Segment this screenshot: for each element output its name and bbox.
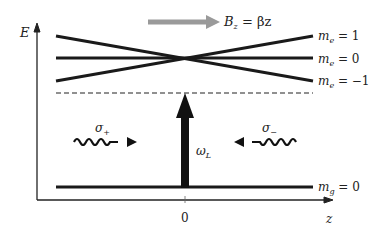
level-label-me-0: me = 0 [318, 53, 359, 65]
x-axis-arrowhead-icon [324, 197, 333, 203]
label-main: m [318, 52, 329, 66]
label-main: m [318, 74, 329, 88]
origin-tick-label: 0 [181, 212, 189, 224]
y-axis-arrowhead-icon [34, 23, 40, 32]
label-sub: + [103, 128, 110, 137]
sigma-plus-label: σ+ [95, 122, 110, 134]
laser-arrowhead-icon [176, 93, 194, 118]
label-sub: e [329, 59, 334, 68]
laser-label: ωL [196, 145, 211, 157]
x-axis-label: z [326, 213, 332, 225]
field-label-main: B [224, 14, 234, 29]
sigma-minus-arrowhead-icon [234, 137, 244, 147]
label-sub: − [270, 128, 277, 137]
label-sub: e [329, 81, 334, 90]
sigma-plus-beam [74, 137, 137, 147]
field-label-sub: z [234, 22, 238, 31]
label-rest: = 0 [335, 180, 360, 194]
label-rest: = 1 [334, 29, 359, 43]
label-sub: L [206, 151, 211, 160]
level-label-me-minus1: me = −1 [318, 75, 370, 87]
label-main: m [318, 180, 329, 194]
field-label: Bz = βz [224, 15, 271, 28]
level-label-me-plus1: me = 1 [318, 30, 359, 42]
y-axis-label: E [20, 26, 30, 39]
sigma-minus-beam [234, 137, 296, 147]
label-main: σ [262, 121, 270, 135]
sigma-minus-label: σ− [262, 122, 277, 134]
label-rest: = −1 [334, 74, 369, 88]
label-main: σ [95, 121, 103, 135]
field-label-rest: = βz [238, 14, 272, 29]
label-sub: e [329, 36, 334, 45]
excited-levels [56, 36, 313, 81]
label-main: ω [196, 144, 206, 158]
label-main: m [318, 29, 329, 43]
label-rest: = 0 [334, 52, 359, 66]
laser-arrow [176, 93, 194, 188]
field-arrowhead-icon [206, 15, 220, 29]
sigma-plus-arrowhead-icon [127, 137, 137, 147]
field-arrow [148, 15, 220, 29]
label-sub: g [329, 187, 334, 196]
level-label-mg-0: mg = 0 [318, 181, 360, 193]
